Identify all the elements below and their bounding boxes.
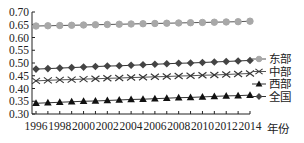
y-tick-label: 0.45	[9, 70, 29, 82]
series-x	[32, 70, 254, 83]
line-chart: 0.700.650.600.550.500.450.400.350.30 199…	[0, 0, 304, 143]
x-tick-label: 2010	[191, 120, 214, 132]
y-tick-label: 0.30	[9, 108, 29, 120]
series-circle	[33, 18, 253, 29]
y-tick-label: 0.60	[9, 32, 29, 44]
x-tick-label: 2012	[215, 120, 238, 132]
legend: 东部中部西部全国	[252, 52, 291, 104]
x-tick-label: 2004	[120, 120, 143, 132]
series-diamond	[32, 57, 254, 73]
legend-item: 全国	[252, 90, 291, 104]
y-tick-label: 0.40	[9, 83, 29, 95]
x-tick-label: 2008	[167, 120, 190, 132]
series-triangle	[32, 91, 254, 106]
x-tick-label: 2006	[143, 120, 166, 132]
y-axis: 0.700.650.600.550.500.450.400.350.30	[9, 6, 35, 120]
x-tick-label: 2000	[72, 120, 95, 132]
y-tick-label: 0.35	[9, 95, 29, 107]
x-tick-label: 2014	[239, 120, 262, 132]
y-tick-label: 0.70	[9, 6, 29, 18]
y-tick-label: 0.50	[9, 57, 29, 69]
series-group	[32, 18, 254, 106]
y-tick-label: 0.55	[9, 44, 29, 56]
x-tick-label: 1998	[48, 120, 71, 132]
y-tick-label: 0.65	[9, 19, 29, 31]
x-axis: 1996199820002002200420062008201020122014	[25, 111, 262, 132]
x-tick-label: 1996	[25, 120, 48, 132]
x-axis-title: 年份	[267, 122, 290, 136]
x-tick-label: 2002	[96, 120, 119, 132]
legend-label: 全国	[269, 90, 291, 104]
